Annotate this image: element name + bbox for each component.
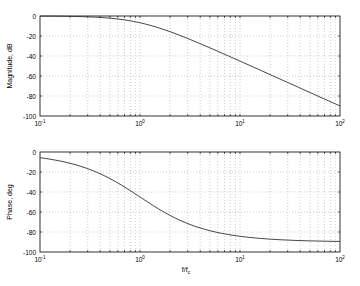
- frequency-axis-label-sub: c: [188, 269, 191, 275]
- y-tick-label: 0: [32, 13, 36, 20]
- x-tick-label: 101: [235, 119, 245, 127]
- y-tick-label: -40: [27, 53, 37, 60]
- y-tick-label: -80: [27, 229, 37, 236]
- y-tick-label: -20: [27, 169, 37, 176]
- y-tick-label: -60: [27, 209, 37, 216]
- magnitude-curve: [40, 16, 340, 106]
- y-tick-label: -20: [27, 33, 37, 40]
- x-tick-label: 102: [335, 119, 345, 127]
- plot-frame: [40, 152, 340, 252]
- x-tick-label: 10-1: [34, 119, 46, 127]
- y-tick-label: -100: [23, 113, 36, 120]
- plot-frame: [40, 16, 340, 116]
- magnitude-plot: 0-20-40-60-80-10010-1100101102: [23, 13, 345, 128]
- y-tick-label: -60: [27, 73, 37, 80]
- y-tick-label: -40: [27, 189, 37, 196]
- phase-plot: 0-20-40-60-80-10010-1100101102: [23, 149, 345, 264]
- y-tick-label: -80: [27, 93, 37, 100]
- x-tick-label: 102: [335, 255, 345, 263]
- bode-plot: 0-20-40-60-80-10010-1100101102 0-20-40-6…: [0, 0, 360, 286]
- y-tick-label: -100: [23, 249, 36, 256]
- frequency-axis-label: f/fc: [182, 266, 191, 275]
- x-tick-label: 100: [135, 255, 145, 263]
- x-tick-label: 100: [135, 119, 145, 127]
- x-tick-label: 10-1: [34, 255, 46, 263]
- y-tick-label: 0: [32, 149, 36, 156]
- x-tick-label: 101: [235, 255, 245, 263]
- phase-curve: [40, 158, 340, 242]
- magnitude-axis-label: Magnitude, dB: [6, 43, 14, 88]
- phase-axis-label: Phase, deg: [6, 184, 14, 220]
